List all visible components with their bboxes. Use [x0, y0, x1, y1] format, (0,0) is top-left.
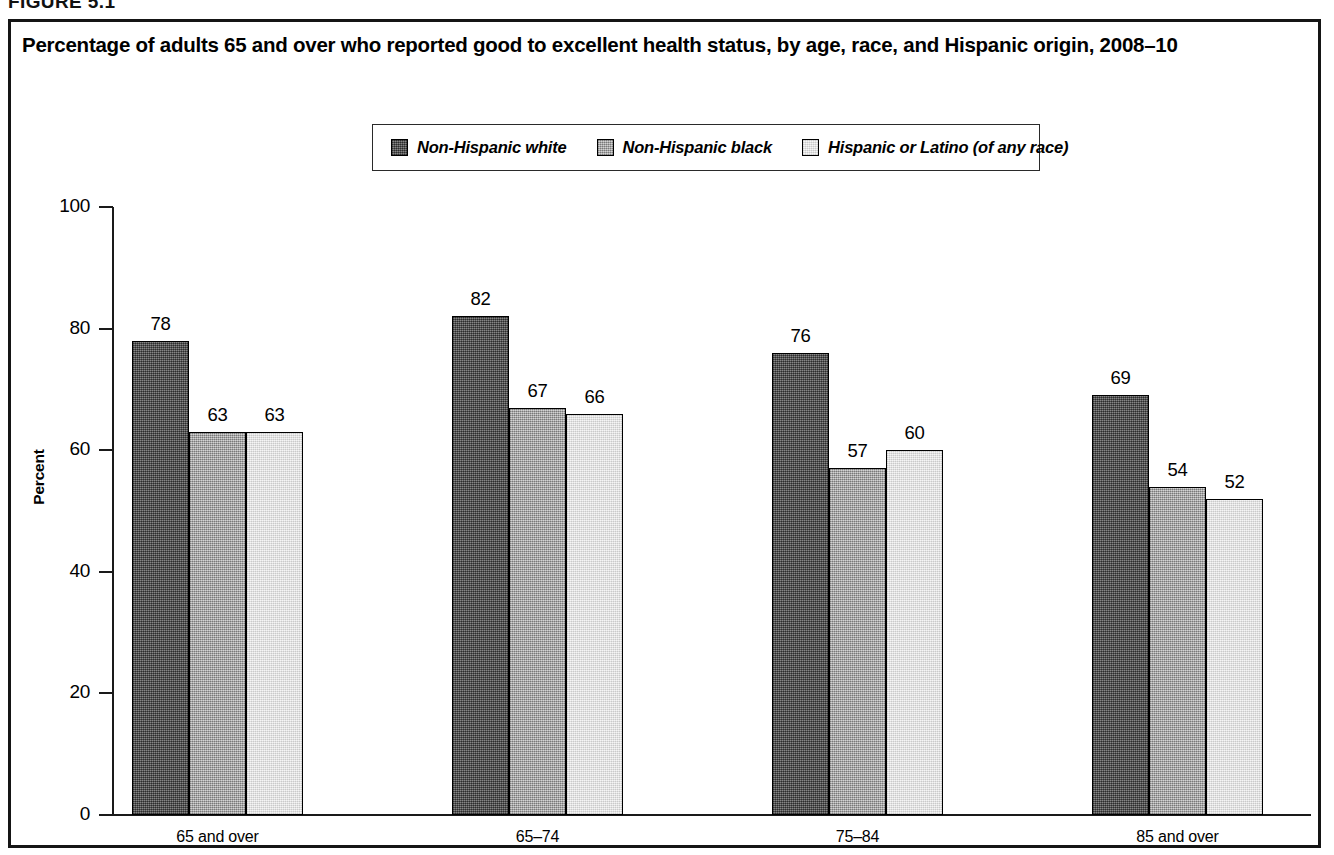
legend-item-non-hispanic-black: Non-Hispanic black: [597, 138, 773, 157]
legend-label-hispanic-or-latino: Hispanic or Latino (of any race): [828, 138, 1068, 157]
legend-swatch-icon-non-hispanic-white: [391, 139, 408, 156]
legend-item-hispanic-or-latino: Hispanic or Latino (of any race): [802, 138, 1068, 157]
figure-number: FIGURE 5.1: [8, 0, 115, 13]
legend-label-non-hispanic-white: Non-Hispanic white: [417, 138, 567, 157]
legend-label-non-hispanic-black: Non-Hispanic black: [623, 138, 773, 157]
chart-legend: Non-Hispanic white Non-Hispanic black Hi…: [372, 124, 1040, 171]
legend-item-non-hispanic-white: Non-Hispanic white: [391, 138, 567, 157]
legend-swatch-icon-non-hispanic-black: [597, 139, 614, 156]
chart-title: Percentage of adults 65 and over who rep…: [22, 33, 1292, 57]
legend-swatch-icon-hispanic-or-latino: [802, 139, 819, 156]
